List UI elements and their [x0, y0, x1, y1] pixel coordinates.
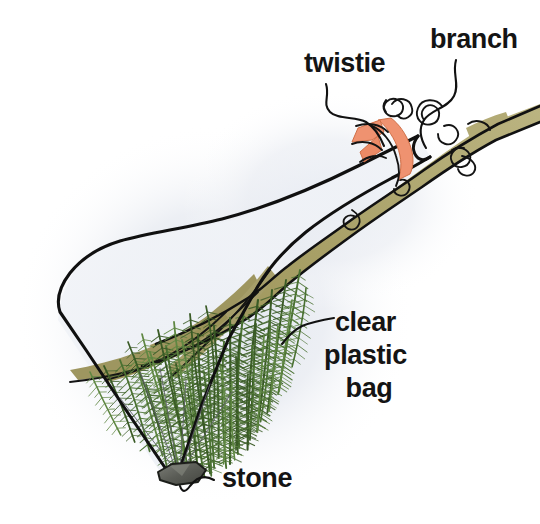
diagram-canvas: twistie branch clear plastic bag stone [0, 0, 540, 524]
illustration-root: twistie branch clear plastic bag stone [0, 0, 540, 524]
label-branch: branch [430, 24, 518, 54]
label-twistie: twistie [304, 48, 386, 78]
label-stone: stone [222, 463, 292, 493]
